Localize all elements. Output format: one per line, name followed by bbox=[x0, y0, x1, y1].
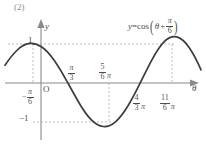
equation-phase-fraction: π 6 bbox=[166, 17, 173, 35]
origin-label: O bbox=[43, 85, 50, 94]
x-tick-numerator-neg-pi-6: π bbox=[27, 88, 33, 96]
x-tick-label-5pi-6: 5 6 π bbox=[99, 56, 111, 81]
x-tick-numerator-11pi-6: 11 bbox=[160, 94, 170, 102]
equation-close-paren: ) bbox=[174, 18, 178, 35]
x-tick-denominator-5pi-6: 6 bbox=[100, 73, 106, 81]
problem-number: (2) bbox=[14, 3, 25, 12]
x-tick-fraction-neg-pi-6: π 6 bbox=[27, 88, 34, 106]
x-tick-fraction-11pi-6: 11 6 bbox=[160, 94, 170, 112]
y-axis-arrowhead bbox=[37, 19, 44, 28]
cosine-curve bbox=[5, 37, 201, 127]
x-axis-label: θ bbox=[192, 84, 196, 93]
x-tick-pi-symbol-11pi-6: π bbox=[171, 103, 175, 112]
equation-plus-sign: + bbox=[160, 22, 165, 31]
x-tick-fraction-pi-3: π 3 bbox=[68, 64, 75, 82]
x-tick-label-neg-pi-6: − π 6 bbox=[22, 86, 34, 106]
x-tick-pi-symbol-4pi-3: π bbox=[141, 103, 145, 112]
x-tick-fraction-5pi-6: 5 6 bbox=[99, 63, 106, 81]
x-tick-label-pi-3: π 3 bbox=[68, 57, 75, 82]
equation-phase-numerator: π bbox=[167, 17, 173, 25]
equation-argument-variable: θ bbox=[155, 22, 159, 31]
x-tick-denominator-neg-pi-6: 6 bbox=[27, 98, 33, 106]
equation-phase-denominator: 6 bbox=[167, 27, 173, 35]
x-tick-fraction-4pi-3: 4 3 bbox=[133, 94, 140, 112]
x-tick-numerator-5pi-6: 5 bbox=[100, 63, 106, 71]
y-tick-label-negative-one: −1 bbox=[19, 114, 29, 123]
x-tick-numerator-4pi-3: 4 bbox=[134, 94, 140, 102]
x-tick-denominator-11pi-6: 6 bbox=[162, 104, 168, 112]
y-axis-label: y bbox=[45, 22, 49, 31]
curve-equation-label: y = cos ( θ + π 6 ) bbox=[128, 17, 179, 35]
y-tick-label-one: 1 bbox=[28, 36, 33, 45]
x-tick-label-11pi-6: 11 6 π bbox=[160, 87, 175, 112]
x-tick-denominator-4pi-3: 3 bbox=[134, 104, 140, 112]
equation-function-name: cos bbox=[137, 22, 149, 31]
x-tick-denominator-pi-3: 3 bbox=[69, 74, 75, 82]
x-tick-pi-symbol-5pi-6: π bbox=[107, 72, 111, 81]
x-tick-numerator-pi-3: π bbox=[68, 64, 74, 72]
x-tick-label-4pi-3: 4 3 π bbox=[133, 87, 145, 112]
equation-open-paren: ( bbox=[150, 18, 154, 35]
